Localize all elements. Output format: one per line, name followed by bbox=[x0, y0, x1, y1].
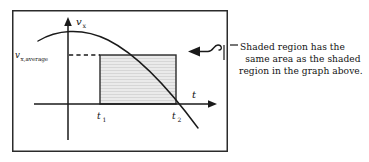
callout-arrowhead bbox=[188, 47, 200, 57]
callout-pointer bbox=[186, 38, 242, 64]
tick-label-t2-sub: 2 bbox=[178, 116, 182, 123]
tick-label-t1: t bbox=[97, 110, 101, 121]
caption-line-2: same area as the shaded bbox=[239, 53, 367, 65]
shaded-region bbox=[100, 55, 176, 104]
caption-line-1: Shaded region has the bbox=[239, 41, 367, 53]
figure-page: v x t v x,average t 1 t 2 Shaded region … bbox=[0, 0, 369, 162]
t-axis-arrowhead bbox=[208, 100, 217, 108]
average-velocity-sublabel: x,average bbox=[21, 56, 49, 63]
tick-label-t2: t bbox=[172, 110, 176, 121]
caption-text-block: Shaded region has the same area as the s… bbox=[239, 41, 367, 77]
v-axis-arrowhead bbox=[64, 17, 72, 26]
v-axis-label: v bbox=[76, 16, 82, 27]
v-axis-sublabel: x bbox=[83, 22, 87, 30]
average-velocity-label: v bbox=[15, 50, 20, 60]
graph-panel: v x t v x,average t 1 t 2 bbox=[12, 10, 228, 152]
velocity-time-graph: v x t v x,average t 1 t 2 bbox=[12, 10, 228, 152]
callout-s-curve bbox=[199, 45, 221, 52]
tick-label-t1-sub: 1 bbox=[103, 116, 107, 123]
t-axis-label: t bbox=[192, 89, 197, 100]
caption-line-3: region in the graph above. bbox=[239, 65, 367, 77]
